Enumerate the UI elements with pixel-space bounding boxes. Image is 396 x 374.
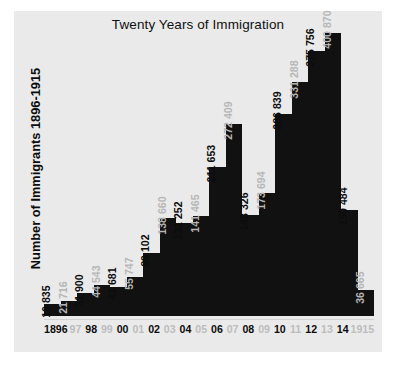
bar-value-label: 89 102 [141, 234, 152, 266]
x-axis-ticks: 1896979899000102030405060708091011121314… [44, 320, 374, 338]
x-axis-tick-label: 06 [209, 320, 225, 338]
x-axis-tick-label: 14 [335, 320, 351, 338]
x-axis-tick-label: 07 [225, 320, 241, 338]
x-axis-tick-label: 05 [193, 320, 209, 338]
bar-value-label: 211 653 [207, 145, 218, 183]
bar: 36 665 [358, 290, 375, 316]
x-axis-tick-label: 08 [240, 320, 256, 338]
bar-value-label: 173 694 [256, 171, 267, 209]
bar: 375 756 [308, 51, 325, 316]
bar-column: 55 747 [127, 33, 144, 316]
bar-value-label: 41 681 [108, 267, 119, 299]
bar-value-label: 55 747 [124, 257, 135, 289]
x-axis-tick-label: 97 [68, 320, 84, 338]
x-axis-tick-label: 1896 [44, 320, 68, 338]
bar-value-label: 331 288 [289, 60, 300, 98]
bar-value-label: 36 665 [355, 271, 366, 303]
x-axis-tick-label: 09 [256, 320, 272, 338]
bar-column: 272 409 [226, 33, 243, 316]
bar: 143 326 [242, 215, 259, 316]
x-axis-tick-label: 03 [162, 320, 178, 338]
bar: 141 465 [193, 216, 210, 316]
x-axis-tick-label: 04 [178, 320, 194, 338]
bar-value-label: 141 465 [190, 194, 201, 232]
bar-column: 400 870 [325, 33, 342, 316]
x-axis-tick-label: 98 [83, 320, 99, 338]
bar-value-label: 272 409 [223, 102, 234, 140]
bar-value-label: 16 835 [42, 285, 53, 317]
bar-value-label: 44 543 [91, 265, 102, 297]
bar-value-label: 286 839 [273, 91, 284, 129]
x-axis-tick-label: 02 [146, 320, 162, 338]
bar-value-label: 131 252 [174, 201, 185, 239]
bar-column: 211 653 [209, 33, 226, 316]
bar-column: 131 252 [176, 33, 193, 316]
bar-value-label: 375 756 [306, 29, 317, 67]
bar-column: 36 665 [358, 33, 375, 316]
bar: 131 252 [176, 223, 193, 316]
bar-column: 138 660 [160, 33, 177, 316]
bar-value-label: 143 326 [240, 193, 251, 231]
x-axis-tick-label: 99 [99, 320, 115, 338]
bar-column: 375 756 [308, 33, 325, 316]
bar-value-label: 138 660 [157, 196, 168, 234]
x-axis-tick-label: 01 [130, 320, 146, 338]
bar-value-label: 21 716 [58, 281, 69, 313]
bar: 286 839 [275, 114, 292, 316]
x-axis-tick-label: 13 [319, 320, 335, 338]
plot-area: 16 83521 71631 90044 54341 68155 74789 1… [44, 33, 374, 316]
bar-column: 173 694 [259, 33, 276, 316]
bar-value-label: 150 484 [339, 188, 350, 226]
bar-column: 16 835 [44, 33, 61, 316]
chart-figure: Twenty Years of Immigration Number of Im… [14, 11, 382, 352]
bar: 41 681 [110, 287, 127, 316]
bar-series: 16 83521 71631 90044 54341 68155 74789 1… [44, 33, 374, 316]
bar-value-label: 31 900 [75, 274, 86, 306]
x-axis-tick-label: 10 [272, 320, 288, 338]
bar: 211 653 [209, 167, 226, 316]
bar-column: 89 102 [143, 33, 160, 316]
x-axis-tick-label: 11 [288, 320, 304, 338]
bar: 55 747 [127, 277, 144, 316]
x-axis-tick-label: 1915 [351, 320, 375, 338]
bar: 331 288 [292, 82, 309, 316]
x-axis-tick-label: 12 [303, 320, 319, 338]
x-axis-tick-label: 00 [115, 320, 131, 338]
bar-value-label: 400 870 [322, 11, 333, 49]
bar-column: 331 288 [292, 33, 309, 316]
bar: 89 102 [143, 253, 160, 316]
bar: 400 870 [325, 33, 342, 316]
y-axis-label: Number of Immigrants 1896-1915 [28, 54, 43, 284]
bar: 173 694 [259, 193, 276, 316]
